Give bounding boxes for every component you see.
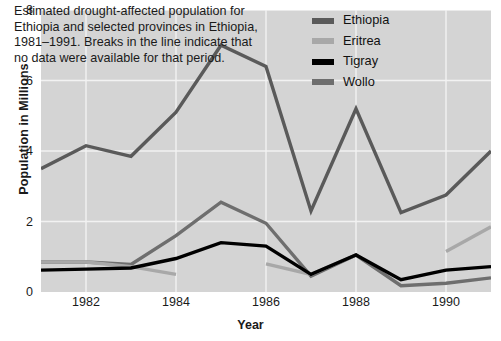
x-tick-1982: 1982 (56, 296, 116, 309)
legend-label: Tigray (343, 55, 378, 68)
legend-swatch-tigray (312, 59, 334, 65)
x-tick-1986: 1986 (236, 296, 296, 309)
series-line-wollo (41, 202, 491, 286)
series-line-eritrea-seg2 (446, 227, 491, 252)
legend-label: Eritrea (343, 35, 381, 48)
y-tick-0: 0 (0, 286, 33, 299)
legend-item-eritrea[interactable]: Eritrea (312, 33, 389, 51)
series-line-tigray (41, 243, 491, 280)
legend-label: Wollo (343, 76, 375, 89)
legend-item-wollo[interactable]: Wollo (312, 74, 389, 92)
legend-swatch-eritrea (312, 38, 334, 44)
legend: EthiopiaEritreaTigrayWollo (312, 12, 389, 94)
x-tick-1984: 1984 (146, 296, 206, 309)
x-axis-title: Year (0, 318, 501, 332)
legend-item-tigray[interactable]: Tigray (312, 53, 389, 71)
legend-swatch-wollo (312, 79, 334, 85)
chart-annotation: Estimated drought-affected population fo… (14, 4, 266, 66)
series-line-eritrea-seg1 (266, 255, 356, 274)
series-line-ethiopia (41, 45, 491, 212)
legend-label: Ethiopia (343, 14, 389, 27)
x-tick-1990: 1990 (416, 296, 476, 309)
legend-item-ethiopia[interactable]: Ethiopia (312, 12, 389, 30)
x-tick-1988: 1988 (326, 296, 386, 309)
line-chart: 8 6 4 2 0 Population in Millions 1982 19… (0, 0, 501, 341)
legend-swatch-ethiopia (312, 18, 334, 24)
